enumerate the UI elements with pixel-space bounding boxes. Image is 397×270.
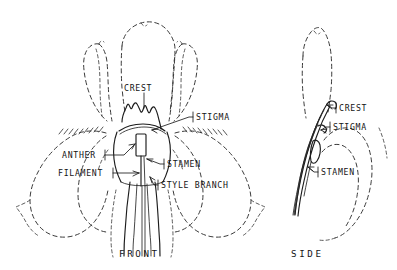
front-style-branch-bowl-right xyxy=(163,132,170,182)
label-crest-side: CREST xyxy=(339,104,367,112)
front-crest-outline xyxy=(122,103,161,129)
leader-stamen-front-arrow xyxy=(147,159,153,162)
label-style-branch-front: STYLE BRANCH xyxy=(161,181,229,189)
front-left-fall-lower-lobe xyxy=(16,200,39,236)
front-stem-inner-line-1 xyxy=(133,184,137,256)
front-spathe-left xyxy=(111,190,116,257)
front-center-standard-notch xyxy=(141,23,147,26)
side-style-bundle xyxy=(293,101,337,216)
iris-diagram: CREST STIGMA ANTHER FILAMENT STAMEN STYL… xyxy=(0,0,397,270)
front-stem-bundle xyxy=(111,182,173,257)
front-left-standard-outline xyxy=(84,44,107,121)
leader-filament-front-arrow xyxy=(133,171,139,176)
label-stigma-front: STIGMA xyxy=(196,113,230,121)
leader-stigma-front xyxy=(152,117,193,130)
front-right-standard-outline xyxy=(174,44,197,121)
front-center-standard-left-edge xyxy=(121,46,125,112)
caption-front-view: FRONT xyxy=(119,249,160,258)
front-stem-right-edge xyxy=(155,182,160,256)
side-fall-lower-edge xyxy=(319,238,335,240)
side-fall-outline xyxy=(324,128,372,238)
front-left-fall-outline xyxy=(30,131,108,237)
label-filament-front: FILAMENT xyxy=(58,169,103,177)
label-stamen-side: STAMEN xyxy=(321,168,355,176)
front-stem-left-edge xyxy=(124,182,130,256)
leader-anther-front xyxy=(105,144,135,155)
front-style-branch-bowl xyxy=(114,132,121,182)
side-fall-inner-fold xyxy=(322,144,358,226)
front-stigma-inner-curve xyxy=(120,127,166,134)
side-standard-outline xyxy=(303,28,332,112)
label-stigma-side: STIGMA xyxy=(333,123,367,131)
front-anther-box xyxy=(136,134,146,156)
front-left-standard-fold xyxy=(96,49,102,116)
front-style-crest-structure xyxy=(114,103,171,186)
front-right-standard-fold xyxy=(179,49,185,116)
front-spathe-right xyxy=(168,190,173,257)
front-right-standard-tip-hook xyxy=(177,41,182,44)
front-filament-line-b xyxy=(144,157,145,186)
front-center-standard-outline xyxy=(122,22,175,112)
side-standard-apex-notch xyxy=(314,31,320,34)
front-stem-inner-line-2 xyxy=(147,184,151,256)
front-right-fall-lower-lobe xyxy=(242,200,265,236)
diagram-artwork xyxy=(0,0,397,270)
side-fall-outer-hint xyxy=(379,128,387,158)
front-left-standard-tip-hook xyxy=(99,41,104,44)
side-fall-petal xyxy=(319,128,387,241)
caption-side-view: SIDE xyxy=(291,249,324,258)
label-anther-front: ANTHER xyxy=(62,151,96,159)
label-stamen-front: STAMEN xyxy=(167,160,201,168)
label-crest-front: CREST xyxy=(124,84,152,92)
side-standard-left-edge xyxy=(302,56,306,118)
leader-stigma-front-arrow xyxy=(152,129,158,133)
front-standard-petals xyxy=(84,22,198,121)
leader-stamen-front xyxy=(147,159,164,164)
side-style-inner-line xyxy=(298,106,330,216)
